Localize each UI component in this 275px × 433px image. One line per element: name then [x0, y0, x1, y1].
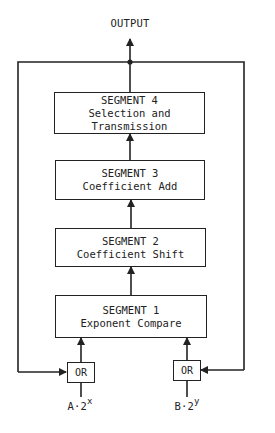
- segment-1-title: SEGMENT 1: [103, 304, 160, 317]
- or-gate-a: OR: [67, 362, 95, 383]
- segment-1-box: SEGMENT 1 Exponent Compare: [55, 295, 207, 338]
- segment-3-title: SEGMENT 3: [102, 167, 159, 180]
- segment-4-line-2: Transmission: [92, 120, 168, 133]
- junction-dot: [127, 59, 132, 64]
- connection-lines: [0, 0, 275, 433]
- segment-3-box: SEGMENT 3 Coefficient Add: [55, 160, 205, 200]
- output-label: OUTPUT: [100, 17, 160, 29]
- segment-4-box: SEGMENT 4 Selection and Transmission: [54, 92, 205, 134]
- segment-3-line-1: Coefficient Add: [83, 180, 178, 193]
- input-a-label: A·2x: [58, 400, 102, 412]
- input-a-base: A·2: [67, 400, 87, 412]
- or-gate-b: OR: [173, 360, 201, 381]
- input-b-base: B·2: [174, 400, 194, 412]
- input-a-exponent: x: [87, 396, 93, 406]
- segment-4-line-1: Selection and: [88, 107, 170, 120]
- input-b-label: B·2y: [165, 400, 209, 412]
- segment-1-line-1: Exponent Compare: [80, 317, 181, 330]
- segment-2-line-1: Coefficient Shift: [77, 248, 184, 261]
- segment-2-title: SEGMENT 2: [102, 235, 159, 248]
- input-b-exponent: y: [194, 396, 200, 406]
- segment-2-box: SEGMENT 2 Coefficient Shift: [55, 228, 206, 267]
- segment-4-title: SEGMENT 4: [101, 94, 158, 107]
